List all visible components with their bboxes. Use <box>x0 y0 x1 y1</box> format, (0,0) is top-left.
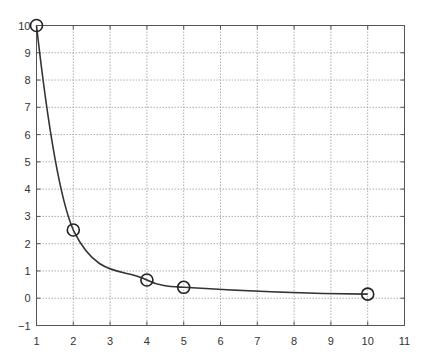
y-tick-label: 0 <box>24 292 30 304</box>
grid-lines <box>37 26 405 326</box>
x-tick-label: 5 <box>181 335 187 347</box>
y-tick-label: 8 <box>24 74 30 86</box>
y-tick-label: 3 <box>24 210 30 222</box>
y-tick-label: 10 <box>18 20 30 32</box>
x-tick-label: 11 <box>399 335 410 347</box>
y-tick-label: 7 <box>24 101 30 113</box>
y-tick-label: 9 <box>24 47 30 59</box>
x-tick-label: 10 <box>362 335 374 347</box>
x-tick-label: 2 <box>70 335 76 347</box>
x-tick-label: 8 <box>291 335 297 347</box>
x-tick-label: 9 <box>328 335 334 347</box>
x-tick-label: 1 <box>33 335 39 347</box>
data-curve <box>37 26 368 295</box>
y-tick-label: 4 <box>24 183 30 195</box>
y-tick-label: 6 <box>24 129 30 141</box>
y-tick-label: 5 <box>24 156 30 168</box>
y-tick-label: −1 <box>18 320 31 332</box>
x-tick-label: 7 <box>254 335 260 347</box>
line-chart: 1234567891011 −1012345678910 <box>0 0 425 358</box>
y-tick-label: 2 <box>24 238 30 250</box>
x-axis-tick-labels: 1234567891011 <box>33 335 410 347</box>
x-tick-label: 6 <box>217 335 223 347</box>
x-tick-label: 3 <box>107 335 113 347</box>
y-tick-label: 1 <box>24 265 30 277</box>
data-point-markers <box>31 20 374 301</box>
y-axis-tick-labels: −1012345678910 <box>18 20 31 332</box>
x-tick-label: 4 <box>144 335 150 347</box>
